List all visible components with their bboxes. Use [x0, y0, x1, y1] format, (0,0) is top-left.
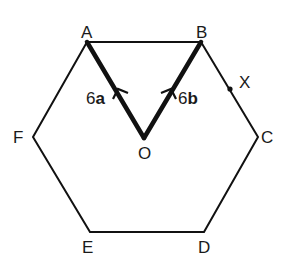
label-c: C: [261, 128, 273, 147]
vector-b-coefficient: 6: [178, 89, 187, 108]
vector-a-coefficient: 6: [86, 89, 95, 108]
hexagon-diagram: A B C D E F O X 6a 6b: [0, 0, 298, 271]
label-x: X: [239, 73, 250, 92]
label-a: A: [81, 23, 93, 42]
label-b: B: [196, 23, 207, 42]
vector-b-label: 6b: [178, 89, 198, 108]
label-o: O: [138, 144, 151, 163]
point-x-dot: [227, 86, 232, 91]
label-f: F: [13, 128, 23, 147]
vector-b-symbol: b: [187, 89, 197, 108]
vector-a-symbol: a: [95, 89, 105, 108]
label-d: D: [198, 238, 210, 257]
label-e: E: [82, 238, 93, 257]
vector-a-label: 6a: [86, 89, 105, 108]
